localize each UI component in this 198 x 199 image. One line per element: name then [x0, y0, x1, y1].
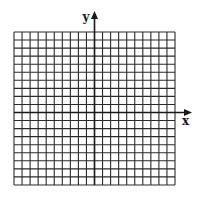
x-axis-label: x — [182, 114, 190, 128]
y-axis-label: y — [82, 10, 91, 24]
coordinate-plane: x y — [0, 0, 198, 199]
coordinate-grid: x y — [0, 0, 198, 199]
y-axis-arrow-icon — [91, 11, 98, 19]
